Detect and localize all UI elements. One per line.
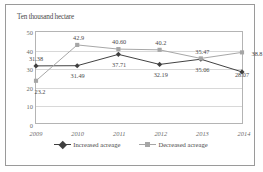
data-point-marker (33, 63, 38, 68)
legend-marker-icon (139, 141, 156, 148)
data-point-marker (240, 50, 244, 54)
data-point-label: 42.9 (73, 34, 84, 41)
data-point-marker (199, 56, 203, 60)
x-axis-tick-label: 2009 (30, 130, 43, 137)
y-axis-tick-label: 30 (27, 66, 33, 73)
chart-card: Ten thousand hectare 01020304050 2009201… (5, 4, 255, 166)
y-axis-tick-label: 0 (30, 122, 33, 129)
data-point-marker (158, 48, 162, 52)
chart-legend: Increased acreageDecreased acreage (6, 141, 256, 148)
data-point-label: 38.8 (251, 49, 262, 56)
legend-entry[interactable]: Decreased acreage (139, 141, 207, 148)
legend-marker-icon (54, 141, 71, 148)
data-point-marker (75, 43, 79, 47)
data-point-label: 28.07 (235, 70, 249, 77)
data-point-label: 40.60 (112, 38, 126, 45)
data-point-marker (75, 63, 80, 68)
series-lines (36, 32, 242, 123)
data-point-label: 37.71 (112, 60, 126, 67)
data-point-label: 35.47 (195, 48, 209, 55)
y-axis-tick-label: 50 (27, 29, 33, 36)
data-point-label: 23.2 (34, 87, 45, 94)
x-axis-tick-label: 2011 (113, 130, 125, 137)
data-point-marker (116, 52, 121, 57)
data-point-label: 32.19 (154, 71, 168, 78)
y-axis-tick-label: 20 (27, 84, 33, 91)
data-point-label: 31.49 (71, 72, 85, 79)
x-axis-tick-label: 2010 (71, 130, 84, 137)
y-axis-tick-label: 10 (27, 103, 33, 110)
x-axis-tick-label: 2013 (196, 130, 209, 137)
data-point-marker (116, 47, 120, 51)
data-point-label: 35.06 (195, 65, 209, 72)
legend-label: Decreased acreage (158, 141, 207, 148)
legend-label: Increased acreage (73, 141, 120, 148)
data-point-marker (157, 62, 162, 67)
data-point-label: 31.38 (29, 54, 43, 61)
x-axis-tick-label: 2014 (238, 130, 251, 137)
y-axis-tick-label: 40 (27, 47, 33, 54)
axis-unit-label: Ten thousand hectare (17, 13, 74, 21)
plot-wrapper: 01020304050 200920102011201220132014 31.… (17, 26, 245, 132)
data-point-marker (34, 79, 38, 83)
data-point-label: 40.2 (155, 39, 166, 46)
x-axis-tick-label: 2012 (154, 130, 167, 137)
legend-entry[interactable]: Increased acreage (54, 141, 120, 148)
plot-area: 01020304050 200920102011201220132014 31.… (35, 31, 243, 124)
